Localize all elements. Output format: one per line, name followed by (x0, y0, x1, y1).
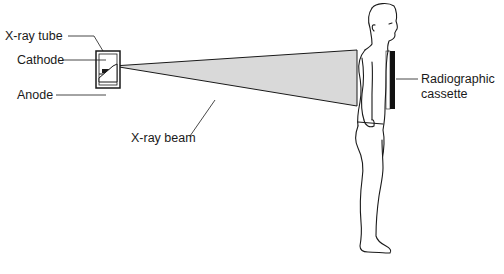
xray-tube-leader (68, 36, 103, 51)
label-cassette-line2: cassette (421, 87, 468, 101)
label-xray-tube: X-ray tube (5, 29, 63, 43)
label-cathode: Cathode (17, 53, 64, 67)
label-xray-beam: X-ray beam (131, 131, 196, 145)
xray-beam (113, 50, 357, 106)
patient-figure (356, 4, 398, 253)
radiographic-cassette (390, 51, 395, 109)
label-anode: Anode (17, 88, 53, 102)
label-cassette-line1: Radiographic (421, 72, 495, 86)
xray-tube (96, 51, 120, 88)
diagram-canvas (0, 0, 504, 274)
